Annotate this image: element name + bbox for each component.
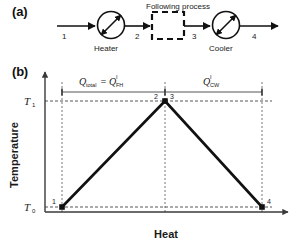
span-right-Q-superscript: I <box>210 74 212 80</box>
span-label-left: Q total = Q I FH <box>79 74 123 88</box>
data-point-label-3: 3 <box>170 93 174 100</box>
data-point-label-1: 1 <box>52 198 56 205</box>
span-right-Q-subscript: CW <box>210 82 220 88</box>
span-left-Q2-superscript: I <box>116 74 118 80</box>
data-point-marker-23 <box>162 98 168 104</box>
span-left-equals: = <box>100 76 107 87</box>
data-point-label-2: 2 <box>154 93 158 100</box>
data-point-marker-1 <box>59 204 65 210</box>
y-axis-title: Temperature <box>8 122 20 188</box>
data-point-label-4: 4 <box>267 198 271 205</box>
temperature-profile-line <box>62 101 262 207</box>
figure-root: (a) (b) 1 Heater 2 Following process 3 <box>0 0 303 246</box>
y-tick-T1-subscript: 1 <box>32 102 36 108</box>
y-tick-T1: T 1 <box>24 95 36 108</box>
x-axis-title: Heat <box>154 228 178 240</box>
span-left-Q1-subscript: total <box>86 82 96 88</box>
y-tick-T0: T 0 <box>24 201 36 214</box>
panel-b-chart: Q total = Q I FH Q I CW 1 2 3 4 T 1 <box>0 0 303 246</box>
y-tick-T1-base: T <box>24 95 31 107</box>
span-left-Q2-subscript: FH <box>116 82 123 88</box>
span-label-right: Q I CW <box>203 74 220 88</box>
data-point-marker-4 <box>259 204 265 210</box>
y-tick-T0-subscript: 0 <box>32 208 36 214</box>
y-tick-T0-base: T <box>24 201 31 213</box>
